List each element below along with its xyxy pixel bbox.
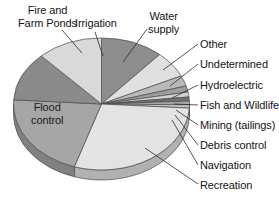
slice-label-debris-control: Debris control	[200, 139, 266, 152]
slice-label-fire-and-farm-ponds: Fire and Farm Ponds	[18, 4, 77, 29]
slice-label-water-supply: Water supply	[148, 10, 179, 35]
pie-chart-figure: Fire and Farm Ponds Irrigation Water sup…	[0, 0, 279, 198]
slice-label-irrigation: Irrigation	[75, 17, 117, 30]
slice-label-flood-control: Flood control	[31, 101, 63, 126]
slice-label-hydroelectric: Hydroelectric	[200, 79, 263, 92]
leader-line-other	[163, 44, 198, 70]
slice-label-undetermined: Undetermined	[200, 58, 268, 71]
slice-label-fish-and-wildlife: Fish and Wildlife	[200, 99, 279, 112]
slice-label-mining-tailings: Mining (tailings)	[200, 119, 275, 132]
slice-label-navigation: Navigation	[200, 159, 251, 172]
slice-label-recreation: Recreation	[200, 179, 252, 192]
slice-label-other: Other	[200, 38, 227, 51]
